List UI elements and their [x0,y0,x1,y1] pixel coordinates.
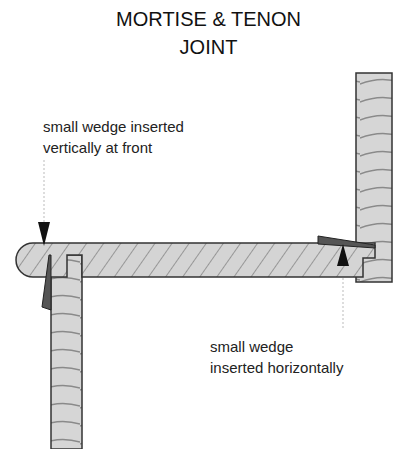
left-leg [51,255,82,449]
joint-drawing [0,0,417,449]
